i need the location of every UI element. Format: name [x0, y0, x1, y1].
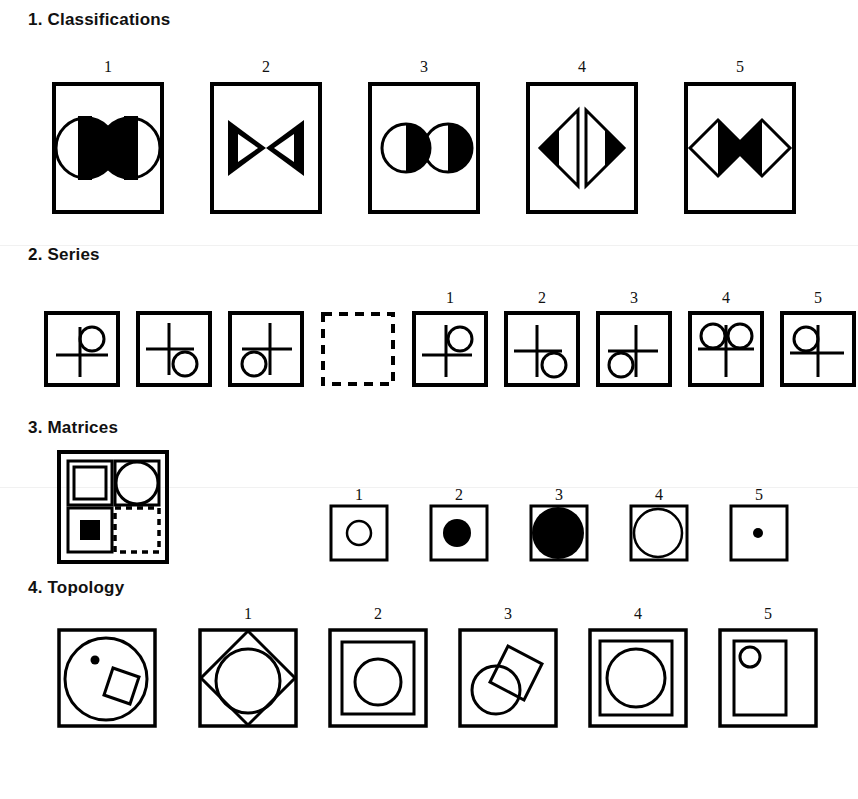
- option-number-1-2: 2: [246, 58, 286, 76]
- matrix-stem: [57, 450, 169, 564]
- series-option-1[interactable]: [412, 311, 488, 387]
- option-number-4-3: 3: [488, 605, 528, 623]
- topology-option-1[interactable]: [198, 628, 298, 728]
- matrix-option-2[interactable]: [429, 504, 489, 562]
- series-option-3[interactable]: [596, 311, 672, 387]
- topology-option-4[interactable]: [588, 628, 688, 728]
- option-number-3-4: 4: [639, 486, 679, 504]
- series-answer-slot[interactable]: [320, 311, 396, 387]
- topology-option-3[interactable]: [458, 628, 558, 728]
- option-number-3-2: 2: [439, 486, 479, 504]
- matrix-option-1[interactable]: [329, 504, 389, 562]
- series-stem-2: [136, 311, 212, 387]
- option-number-4-5: 5: [748, 605, 788, 623]
- option-number-3-3: 3: [539, 486, 579, 504]
- option-number-1-5: 5: [720, 58, 760, 76]
- option-number-1-3: 3: [404, 58, 444, 76]
- series-option-2[interactable]: [504, 311, 580, 387]
- matrix-option-4[interactable]: [629, 504, 689, 562]
- topology-option-5[interactable]: [718, 628, 818, 728]
- classification-option-3[interactable]: [368, 82, 480, 214]
- series-option-5[interactable]: [780, 311, 856, 387]
- section-title-series: 2. Series: [28, 245, 100, 265]
- option-number-4-4: 4: [618, 605, 658, 623]
- classification-option-1[interactable]: [52, 82, 164, 214]
- option-number-4-2: 2: [358, 605, 398, 623]
- section-title-topology: 4. Topology: [28, 578, 124, 598]
- classification-option-4[interactable]: [526, 82, 638, 214]
- option-number-1-1: 1: [88, 58, 128, 76]
- test-page: 1. Classifications 1 2 3 4 5: [0, 0, 858, 799]
- option-number-2-5: 5: [798, 289, 838, 307]
- classification-option-2[interactable]: [210, 82, 322, 214]
- option-number-2-3: 3: [614, 289, 654, 307]
- option-number-3-1: 1: [339, 486, 379, 504]
- option-number-4-1: 1: [228, 605, 268, 623]
- option-number-3-5: 5: [739, 486, 779, 504]
- section-title-matrices: 3. Matrices: [28, 418, 118, 438]
- series-stem-1: [44, 311, 120, 387]
- matrix-option-5[interactable]: [729, 504, 789, 562]
- series-option-4[interactable]: [688, 311, 764, 387]
- matrix-option-3[interactable]: [529, 504, 589, 562]
- topology-option-2[interactable]: [328, 628, 428, 728]
- option-number-1-4: 4: [562, 58, 602, 76]
- section-title-classifications: 1. Classifications: [28, 10, 171, 30]
- option-number-2-1: 1: [430, 289, 470, 307]
- scan-artifact-line: [0, 245, 858, 246]
- option-number-2-4: 4: [706, 289, 746, 307]
- option-number-2-2: 2: [522, 289, 562, 307]
- series-stem-3: [228, 311, 304, 387]
- classification-option-5[interactable]: [684, 82, 796, 214]
- topology-stem: [57, 628, 157, 728]
